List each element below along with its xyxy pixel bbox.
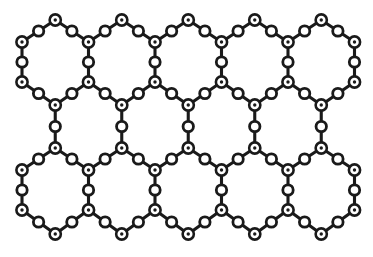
vertex-atom-node <box>149 36 160 47</box>
vertex-atom-node <box>50 142 61 153</box>
vertex-atom-node <box>216 76 227 87</box>
bridge-atom-node <box>299 26 309 36</box>
bridge-atom-node <box>33 88 43 98</box>
vertex-atom-center-dot <box>153 80 156 83</box>
vertex-atom-node <box>349 204 360 215</box>
bridge-atom-node <box>117 121 127 131</box>
vertex-atom-node <box>216 204 227 215</box>
vertex-atom-node <box>282 164 293 175</box>
bridge-atom-node <box>17 57 27 67</box>
vertex-atom-node <box>316 99 327 110</box>
bridge-atom-node <box>316 121 326 131</box>
bridge-atom-node <box>216 57 226 67</box>
vertex-atom-node <box>183 228 194 239</box>
bridge-atom-node <box>283 185 293 195</box>
vertex-atom-center-dot <box>187 146 190 149</box>
bridge-atom-node <box>150 57 160 67</box>
vertex-atom-node <box>16 36 27 47</box>
vertex-atom-center-dot <box>320 146 323 149</box>
vertex-atom-node <box>83 164 94 175</box>
bridge-atom-node <box>83 57 93 67</box>
vertex-atom-center-dot <box>87 40 90 43</box>
vertex-atom-center-dot <box>220 208 223 211</box>
bridge-atom-node <box>100 154 110 164</box>
bridge-atom-node <box>200 217 210 227</box>
vertex-atom-center-dot <box>187 232 190 235</box>
vertex-atom-node <box>249 142 260 153</box>
bridge-atom-node <box>349 185 359 195</box>
vertex-atom-center-dot <box>20 40 23 43</box>
bridge-atom-node <box>133 88 143 98</box>
vertex-atom-node <box>316 14 327 25</box>
vertex-atom-node <box>349 164 360 175</box>
bridge-atom-node <box>266 26 276 36</box>
bridge-atom-node <box>233 88 243 98</box>
bridge-atom-node <box>67 217 77 227</box>
bridge-atom-node <box>100 88 110 98</box>
bridge-atom-node <box>333 88 343 98</box>
vertex-atom-node <box>349 76 360 87</box>
vertex-atom-node <box>83 204 94 215</box>
vertex-atom-node <box>149 76 160 87</box>
vertex-atom-center-dot <box>120 232 123 235</box>
vertex-atom-center-dot <box>87 208 90 211</box>
bridge-atom-node <box>100 217 110 227</box>
vertex-atom-center-dot <box>320 232 323 235</box>
bridge-atom-node <box>266 217 276 227</box>
vertex-atom-center-dot <box>253 232 256 235</box>
bridge-atom-node <box>233 154 243 164</box>
vertex-atom-node <box>249 14 260 25</box>
vertex-atom-node <box>116 14 127 25</box>
vertex-atom-center-dot <box>220 40 223 43</box>
bridge-atom-node <box>133 26 143 36</box>
vertex-atom-center-dot <box>220 168 223 171</box>
bridge-atom-node <box>266 88 276 98</box>
vertex-atom-node <box>183 14 194 25</box>
bridge-atom-node <box>200 88 210 98</box>
vertex-atom-center-dot <box>54 232 57 235</box>
bridge-atom-node <box>333 154 343 164</box>
vertex-atom-center-dot <box>120 146 123 149</box>
vertex-atom-center-dot <box>320 103 323 106</box>
vertex-atom-center-dot <box>353 80 356 83</box>
bridge-atom-node <box>33 154 43 164</box>
vertex-atom-node <box>50 99 61 110</box>
bridge-atom-node <box>166 88 176 98</box>
vertex-atom-center-dot <box>353 40 356 43</box>
vertex-atom-center-dot <box>286 80 289 83</box>
bridge-atom-node <box>200 26 210 36</box>
bridge-atom-node <box>50 121 60 131</box>
vertex-atom-node <box>183 142 194 153</box>
vertex-atom-center-dot <box>220 80 223 83</box>
bridge-atom-node <box>67 26 77 36</box>
vertex-atom-node <box>116 99 127 110</box>
vertex-atom-node <box>50 14 61 25</box>
honeycomb-lattice-diagram <box>0 0 373 257</box>
bridge-atom-node <box>299 88 309 98</box>
vertex-atom-node <box>349 36 360 47</box>
vertex-atom-center-dot <box>153 40 156 43</box>
bridge-atom-node <box>233 217 243 227</box>
bridge-atom-node <box>67 154 77 164</box>
vertex-atom-center-dot <box>87 80 90 83</box>
vertex-atom-node <box>16 164 27 175</box>
vertex-atom-center-dot <box>87 168 90 171</box>
bridge-atom-node <box>299 154 309 164</box>
vertex-atom-node <box>50 228 61 239</box>
vertex-atom-node <box>16 204 27 215</box>
bridge-atom-node <box>17 185 27 195</box>
vertex-atom-node <box>316 142 327 153</box>
bridge-atom-node <box>216 185 226 195</box>
bridge-atom-node <box>133 217 143 227</box>
bridge-atom-node <box>150 185 160 195</box>
vertex-atom-center-dot <box>253 18 256 21</box>
bridge-atom-node <box>233 26 243 36</box>
vertex-atom-center-dot <box>153 168 156 171</box>
lattice-figure <box>0 0 373 257</box>
bridge-atom-node <box>333 217 343 227</box>
bridge-atom-node <box>266 154 276 164</box>
bridge-atom-node <box>83 185 93 195</box>
vertex-atom-node <box>116 142 127 153</box>
vertex-atom-node <box>149 204 160 215</box>
vertex-atom-center-dot <box>54 103 57 106</box>
